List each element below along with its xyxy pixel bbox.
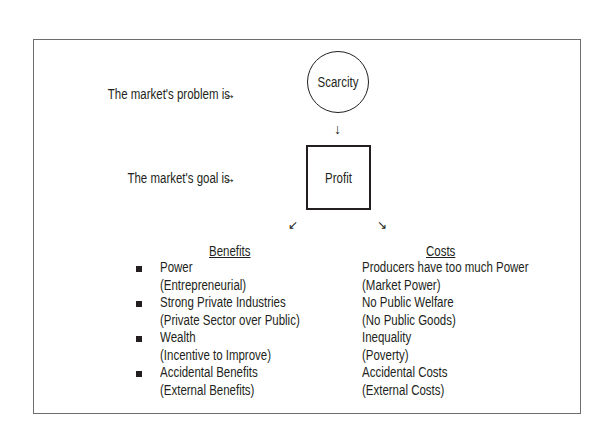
benefits-header: Benefits — [209, 243, 250, 259]
bullet-icon — [136, 371, 142, 377]
right-arrow-icon: → — [222, 171, 236, 185]
down-right-arrow-icon: ↘ — [377, 218, 387, 232]
bullet-icon — [136, 301, 142, 307]
cost-title: Accidental Costs — [362, 364, 448, 380]
cost-detail: (Poverty) — [362, 347, 409, 363]
cost-detail: (No Public Goods) — [362, 312, 456, 328]
profit-node: Profit — [306, 145, 371, 210]
down-left-arrow-icon: ↙ — [288, 218, 298, 232]
cost-detail: (Market Power) — [362, 277, 440, 293]
goal-label: The market's goal is — [128, 170, 230, 186]
cost-title: No Public Welfare — [362, 294, 454, 310]
benefit-title: Wealth — [160, 329, 196, 345]
benefit-title: Power — [160, 259, 193, 275]
bullet-icon — [136, 266, 142, 272]
cost-detail: (External Costs) — [362, 382, 444, 398]
benefit-title: Accidental Benefits — [160, 364, 258, 380]
cost-title: Inequality — [362, 329, 411, 345]
benefit-title: Strong Private Industries — [160, 294, 286, 310]
cost-title: Producers have too much Power — [362, 259, 529, 275]
problem-label-text: The market's problem is — [108, 86, 230, 102]
scarcity-node-label: Scarcity — [313, 74, 362, 90]
benefit-detail: (Incentive to Improve) — [160, 347, 271, 363]
right-arrow-icon: → — [222, 87, 236, 101]
benefit-detail: (Private Sector over Public) — [160, 312, 300, 328]
profit-node-label: Profit — [313, 170, 363, 186]
problem-label: The market's problem is — [108, 86, 230, 102]
goal-label-text: The market's goal is — [128, 170, 230, 186]
bullet-icon — [136, 336, 142, 342]
benefit-detail: (External Benefits) — [160, 382, 254, 398]
benefit-detail: (Entrepreneurial) — [160, 277, 246, 293]
down-arrow-icon: ↓ — [334, 122, 341, 136]
scarcity-node: Scarcity — [307, 51, 369, 113]
costs-header: Costs — [426, 243, 455, 259]
